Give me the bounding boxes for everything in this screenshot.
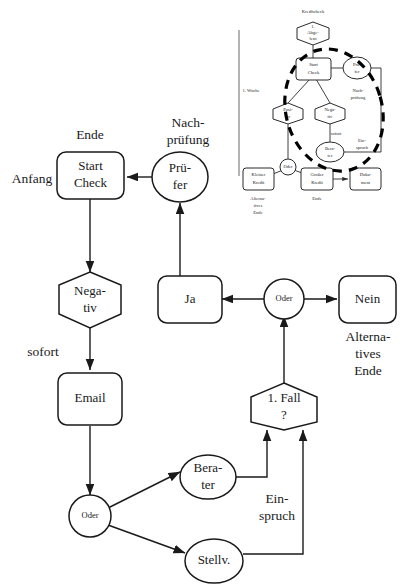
inset-annotation-kreditcheck: Kreditcheck (302, 9, 325, 14)
node-start-check-label-2: Check (74, 175, 108, 190)
inset-negativ-label-2: tiv (328, 114, 334, 119)
inset-annotation-alternatives-1: Alterna- (250, 196, 266, 201)
inset-annotation-alternatives-2: tives (254, 203, 263, 208)
inset-node-pruefer[interactable]: Prü- fer (343, 57, 371, 79)
inset-diagram: 1. Woche 1. Abge- lent (239, 9, 397, 215)
annotation-ende: Ende (76, 127, 104, 142)
node-nein[interactable]: Nein (339, 276, 396, 323)
node-ja-label: Ja (185, 291, 196, 306)
flowchart-svg: Start Check Prü- fer Nega- tiv Ja Oder (0, 0, 409, 587)
inset-pruefer-label-2: fer (354, 69, 360, 74)
inset-node-kleiner-kredit[interactable]: Kleiner Kredit (243, 168, 274, 190)
node-nein-label: Nein (355, 291, 381, 306)
node-pruefer-label-2: fer (173, 177, 188, 192)
diagram-canvas: Start Check Prü- fer Nega- tiv Ja Oder (0, 0, 409, 587)
annotation-alternatives-1: Alterna- (346, 329, 391, 344)
node-oder-middle[interactable]: Oder (264, 279, 304, 319)
node-berater-label-2: ter (201, 477, 215, 492)
node-negativ-label-2: tiv (83, 300, 97, 315)
inset-annotation-alternatives-3: Ende (253, 210, 262, 215)
inset-abgelehnt-label-1: 1. (311, 24, 314, 29)
inset-start-check-label-2: Check (308, 70, 320, 75)
inset-annotation-ende: Ende (312, 196, 321, 201)
inset-oder-label: Oder (283, 164, 293, 169)
node-berater[interactable]: Bera- ter (180, 455, 236, 499)
node-ja[interactable]: Ja (158, 276, 222, 323)
edge-oder-to-berater (108, 472, 180, 508)
node-pruefer[interactable]: Prü- fer (152, 152, 208, 202)
inset-node-dokument[interactable]: Doku- ment (350, 168, 381, 190)
inset-annotation-sofort: sofort (331, 131, 342, 136)
inset-abgelehnt-label-3: lent (310, 36, 318, 41)
node-start-check-label-1: Start (78, 158, 103, 173)
node-oder-lower[interactable]: Oder (69, 495, 111, 537)
annotation-anfang: Anfang (12, 171, 53, 186)
inset-abgelehnt-label-2: Abge- (307, 30, 319, 35)
node-berater-label-1: Bera- (194, 460, 223, 475)
annotation-sofort: sofort (27, 344, 59, 359)
annotation-nachpruefung-1: Nach- (172, 115, 205, 130)
node-oder-lower-label: Oder (82, 510, 99, 520)
node-oder-middle-label: Oder (276, 293, 293, 303)
inset-node-grosser-kredit[interactable]: Großer Kredit (301, 168, 333, 190)
inset-kleiner-kredit-label-1: Kleiner (252, 172, 266, 177)
inset-edge-startcheck-positiv (288, 79, 310, 103)
edge-oder-to-stellv (108, 525, 185, 553)
inset-node-oder[interactable]: Oder (280, 159, 296, 175)
inset-dokument-label-1: Doku- (360, 172, 372, 177)
inset-node-negativ[interactable]: Nega- tiv (315, 103, 345, 124)
inset-node-berater[interactable]: Bera- ter (316, 142, 344, 162)
node-stellvertreter-label: Stellv. (198, 552, 231, 567)
inset-annotation-einspruch-2: spruch (356, 145, 369, 150)
inset-start-check-label-1: Start (309, 62, 318, 67)
node-stellvertreter[interactable]: Stellv. (185, 539, 243, 583)
inset-positiv-label-1: Posi- (283, 107, 293, 112)
node-erster-fall-label-2: ? (281, 407, 287, 422)
annotation-alternatives-2: tives (355, 346, 381, 361)
edge-berater-to-fall (236, 430, 267, 477)
annotation-alternatives-3: Ende (354, 363, 382, 378)
inset-annotation-nachpruefung-2: prüfung (351, 95, 366, 100)
node-pruefer-label-1: Prü- (169, 160, 191, 175)
inset-node-abgelehnt[interactable]: 1. Abge- lent (297, 22, 329, 45)
inset-negativ-label-1: Nega- (324, 107, 336, 112)
annotation-einspruch-2: spruch (259, 508, 295, 523)
annotation-nachpruefung-2: prüfung (167, 132, 210, 147)
node-erster-fall-label-1: 1. Fall (267, 390, 301, 405)
inset-annotation-einspruch-1: Ein- (358, 138, 366, 143)
node-email[interactable]: Email (58, 373, 122, 425)
inset-berater-label-2: ter (328, 153, 333, 158)
node-negativ-label-1: Nega- (74, 283, 106, 298)
inset-node-positiv[interactable]: Posi- tiv (273, 103, 303, 124)
node-negativ[interactable]: Nega- tiv (59, 272, 121, 328)
inset-edge-startcheck-negativ (316, 79, 330, 103)
node-start-check[interactable]: Start Check (57, 152, 124, 199)
annotation-einspruch-1: Ein- (265, 491, 289, 506)
inset-dokument-label-2: ment (361, 180, 371, 185)
inset-grosser-kredit-label-1: Großer (310, 172, 323, 177)
node-email-label: Email (74, 390, 105, 405)
inset-axis-label: 1. Woche (242, 88, 259, 93)
inset-kleiner-kredit-label-2: Kredit (253, 180, 265, 185)
inset-berater-label-1: Bera- (325, 146, 336, 151)
node-erster-fall[interactable]: 1. Fall ? (251, 383, 317, 430)
inset-annotation-nachpruefung-1: Nach- (352, 88, 364, 93)
inset-grosser-kredit-label-2: Kredit (311, 180, 323, 185)
